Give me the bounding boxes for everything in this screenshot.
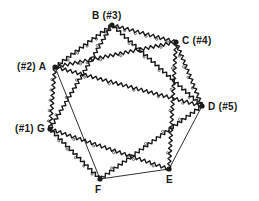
coil-mark <box>152 165 154 167</box>
coil-mark <box>73 138 75 140</box>
coil-mark <box>100 59 102 61</box>
node-label-C: C (#4) <box>182 36 212 46</box>
coil-mark <box>77 52 79 54</box>
node-label-G: (#1) G <box>15 124 45 134</box>
node-label-B: B (#3) <box>92 11 122 21</box>
node-label-D: D (#5) <box>208 102 238 112</box>
coil-mark <box>96 44 98 46</box>
coil-mark <box>162 130 164 132</box>
coil-mark <box>67 59 69 61</box>
coil-mark <box>170 88 172 90</box>
coil-mark <box>183 66 185 68</box>
node-B <box>109 22 114 27</box>
coil-mark <box>132 158 134 160</box>
node-label-E: E <box>166 175 173 185</box>
node-A <box>52 64 57 69</box>
edge-A-C-wavy <box>55 42 176 69</box>
edge-D-F-wavy <box>100 106 202 179</box>
coil-mark <box>66 148 68 150</box>
coil-mark <box>111 167 113 169</box>
node-label-A: (#2) A <box>17 62 46 72</box>
coil-mark <box>84 76 86 78</box>
edge-B-C-wavy <box>112 25 176 42</box>
coil-mark <box>113 152 115 154</box>
coil-mark <box>93 145 95 147</box>
coil-mark <box>79 63 81 65</box>
coil-mark <box>120 55 122 57</box>
edge-G-E-wavy <box>50 129 169 170</box>
coil-mark <box>171 67 173 69</box>
coil-mark <box>160 46 162 48</box>
coil-mark <box>128 42 130 44</box>
coil-mark <box>91 173 93 175</box>
node-E <box>166 166 171 171</box>
node-label-F: F <box>95 185 101 195</box>
node-F <box>97 176 102 181</box>
node-C <box>173 39 178 44</box>
coil-mark <box>145 143 147 145</box>
node-G <box>47 126 52 131</box>
coil-mark <box>179 118 181 120</box>
edge-C-E-wavy <box>168 42 178 169</box>
node-layer <box>47 22 204 181</box>
node-D <box>199 103 204 108</box>
edge-layer <box>47 25 202 179</box>
coil-mark <box>58 140 60 142</box>
